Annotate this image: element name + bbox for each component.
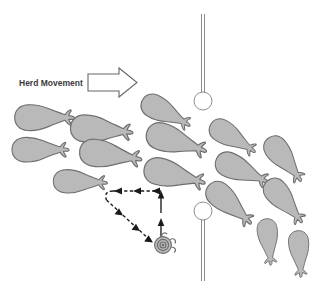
diagram-canvas: Herd Movement — [0, 0, 323, 284]
herd-movement-label: Herd Movement — [19, 78, 83, 88]
whale-herd-diagram: Herd Movement — [0, 0, 323, 284]
